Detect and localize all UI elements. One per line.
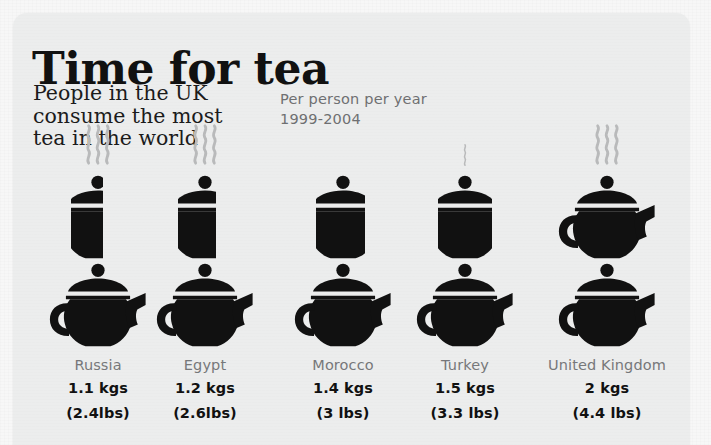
chart-column-turkey: Turkey1.5 kgs(3.3 lbs) <box>390 13 540 445</box>
value-kgs-label: 1.5 kgs <box>390 380 540 396</box>
country-label: Egypt <box>130 357 280 373</box>
steam-icon <box>454 142 476 168</box>
value-lbs-label: (2.6lbs) <box>130 405 280 421</box>
teapot-icon <box>291 262 395 351</box>
teapot-icon <box>153 262 257 351</box>
teapot-unit <box>130 262 280 351</box>
steam-icon <box>185 121 225 168</box>
teapot-partial-unit <box>390 174 540 263</box>
value-lbs-label: (3.3 lbs) <box>390 405 540 421</box>
value-lbs-label: (4.4 lbs) <box>532 405 682 421</box>
teapot-icon <box>555 262 659 351</box>
teapot-icon <box>438 174 492 263</box>
teapot-icon <box>316 174 365 263</box>
steam-icon <box>587 121 627 168</box>
country-label: Turkey <box>390 357 540 373</box>
country-label: United Kingdom <box>532 357 682 373</box>
teapot-pictogram-chart: Russia1.1 kgs(2.4lbs) Egypt1.2 kgs(2.6lb… <box>13 13 690 445</box>
teapot-unit <box>390 262 540 351</box>
chart-column-egypt: Egypt1.2 kgs(2.6lbs) <box>130 13 280 445</box>
steam-icon <box>78 121 118 168</box>
teapot-unit <box>532 262 682 351</box>
value-kgs-label: 1.2 kgs <box>130 380 280 396</box>
infographic-card: Time for tea People in the UK consume th… <box>13 13 690 445</box>
infographic-frame: Time for tea People in the UK consume th… <box>0 0 711 445</box>
teapot-unit <box>532 174 682 263</box>
teapot-icon <box>413 262 517 351</box>
teapot-icon <box>71 174 103 263</box>
teapot-icon <box>178 174 216 263</box>
teapot-partial-unit <box>130 174 280 263</box>
value-kgs-label: 2 kgs <box>532 380 682 396</box>
chart-column-united-kingdom: United Kingdom2 kgs(4.4 lbs) <box>532 13 682 445</box>
teapot-icon <box>555 174 659 263</box>
